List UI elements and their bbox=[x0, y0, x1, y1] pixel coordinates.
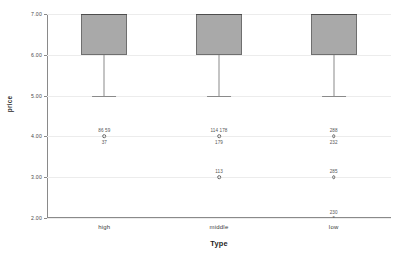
gridline bbox=[47, 218, 391, 219]
outlier-label-above: 230 bbox=[330, 210, 338, 215]
median-line bbox=[196, 14, 242, 15]
y-axis-tick bbox=[44, 177, 47, 178]
box-rect[interactable] bbox=[81, 14, 127, 55]
y-axis-tick bbox=[44, 96, 47, 97]
outlier-marker[interactable] bbox=[332, 135, 336, 139]
box-rect[interactable] bbox=[311, 14, 357, 55]
y-axis-tick-label: 5.00 bbox=[31, 93, 42, 99]
outlier-label-below: 37 bbox=[102, 140, 107, 145]
y-axis-tick bbox=[44, 218, 47, 219]
outlier-marker[interactable] bbox=[217, 135, 221, 139]
box-rect[interactable] bbox=[196, 14, 242, 55]
outlier-label-below: 179 bbox=[215, 140, 223, 145]
x-axis-tick-label-low: low bbox=[329, 224, 339, 230]
median-line bbox=[81, 14, 127, 15]
x-axis-title: Type bbox=[210, 239, 228, 248]
outlier-label-above: 114 178 bbox=[211, 128, 228, 133]
whisker-line-lower bbox=[104, 55, 105, 96]
outlier-label-above: 285 bbox=[330, 169, 338, 174]
outlier-marker[interactable] bbox=[103, 135, 107, 139]
outlier-label-below: 232 bbox=[330, 140, 338, 145]
y-axis-tick-label: 4.00 bbox=[31, 133, 42, 139]
y-axis-tick-label: 6.00 bbox=[31, 52, 42, 58]
outlier-label-above: 113 bbox=[215, 169, 223, 174]
y-axis-tick bbox=[44, 14, 47, 15]
y-axis-tick bbox=[44, 55, 47, 56]
y-axis-tick bbox=[44, 136, 47, 137]
y-axis-tick-label: 3.00 bbox=[31, 174, 42, 180]
outlier-marker[interactable] bbox=[332, 175, 336, 179]
whisker-cap-lower bbox=[322, 96, 346, 97]
plot-area: 7.006.005.004.003.002.00 86 5937114 1781… bbox=[47, 14, 391, 218]
y-axis-tick-label: 7.00 bbox=[31, 11, 42, 17]
y-axis-line bbox=[47, 14, 48, 218]
whisker-line-lower bbox=[219, 55, 220, 96]
y-axis-tick-label: 2.00 bbox=[31, 215, 42, 221]
outlier-label-above: 288 bbox=[330, 128, 338, 133]
whisker-cap-lower bbox=[92, 96, 116, 97]
median-line bbox=[311, 14, 357, 15]
outlier-marker[interactable] bbox=[217, 175, 221, 179]
outlier-label-above: 86 59 bbox=[98, 128, 110, 133]
whisker-line-lower bbox=[333, 55, 334, 96]
boxplot-chart: price 7.006.005.004.003.002.00 86 593711… bbox=[0, 0, 415, 258]
outlier-marker-extreme[interactable]: * bbox=[332, 215, 334, 221]
whisker-cap-lower bbox=[207, 96, 231, 97]
x-axis-tick-label-high: high bbox=[98, 224, 110, 230]
x-axis-tick-label-middle: middle bbox=[210, 224, 229, 230]
y-axis-title: price bbox=[6, 96, 13, 112]
